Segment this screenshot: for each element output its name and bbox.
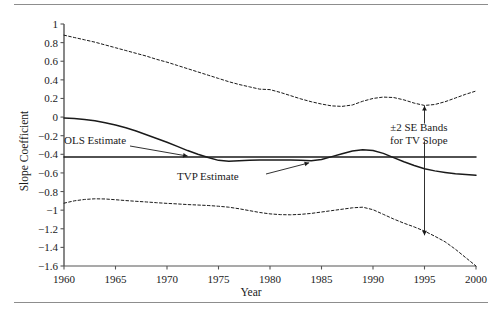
figure-container: 10.80.60.40.20−0.2−0.4−0.6−0.8−1−1.2−1.4…: [0, 0, 502, 314]
y-tick-label: −1.6: [10, 261, 58, 272]
y-tick-label: 0.4: [10, 74, 58, 85]
x-tick-label: 1960: [53, 274, 75, 285]
series-line: [64, 199, 476, 266]
y-tick-label: 1: [10, 19, 58, 30]
y-tick-label: 0.6: [10, 56, 58, 67]
x-tick-label: 1975: [208, 274, 230, 285]
se-bands-annotation: ±2 SE Bands for TV Slope: [390, 121, 448, 146]
series-line: [64, 35, 476, 106]
x-axis-title: Year: [0, 286, 502, 298]
x-tick-label: 1985: [311, 274, 333, 285]
y-axis-title: Slope Coefficient: [18, 91, 30, 211]
series-group: [64, 35, 476, 266]
y-tick-label: −1.4: [10, 242, 58, 253]
y-tick-label: 0.8: [10, 37, 58, 48]
annotation-leader: [266, 162, 309, 174]
y-tick-label: −1.2: [10, 223, 58, 234]
se-bands-annotation-line1: ±2 SE Bands: [390, 121, 448, 134]
se-bands-annotation-line2: for TV Slope: [390, 134, 448, 147]
x-tick-label: 1970: [156, 274, 178, 285]
x-tick-label: 1990: [362, 274, 384, 285]
x-tick-label: 1995: [414, 274, 436, 285]
ols-estimate-annotation: OLS Estimate: [64, 134, 126, 147]
chart-plot-area: [0, 0, 502, 314]
x-tick-label: 1965: [105, 274, 127, 285]
x-tick-label: 1980: [259, 274, 281, 285]
annotation-leader: [422, 141, 427, 235]
tvp-estimate-annotation: TVP Estimate: [177, 170, 239, 183]
annotation-arrows: [130, 106, 427, 235]
x-tick-label: 2000: [465, 274, 487, 285]
axes-group: [61, 24, 477, 270]
